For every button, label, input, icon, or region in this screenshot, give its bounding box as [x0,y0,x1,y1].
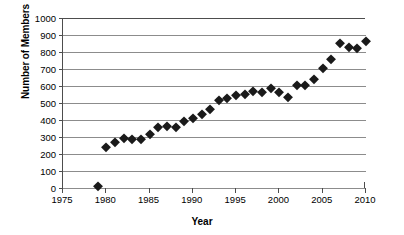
data-point-marker [318,63,327,72]
gridline [63,154,366,155]
x-tick-mark [149,188,150,193]
y-tick-mark [59,69,63,70]
y-tick-mark [59,18,63,19]
data-point-marker [275,87,284,96]
x-tick-label: 2005 [311,194,332,205]
y-tick-label: 0 [51,183,56,194]
y-tick-label: 600 [40,81,56,92]
x-tick-mark [62,188,63,193]
gridline [63,171,366,172]
y-tick-mark [59,86,63,87]
x-tick-label: 2010 [354,194,375,205]
y-tick-label: 700 [40,64,56,75]
gridline [63,52,366,53]
y-tick-label: 300 [40,132,56,143]
plot-area: 01002003004005006007008009001000 [62,18,365,188]
y-tick-mark [59,35,63,36]
y-tick-label: 200 [40,149,56,160]
x-tick-mark [322,188,323,193]
data-point-marker [309,75,318,84]
data-point-marker [283,92,292,101]
x-tick-label: 1990 [181,194,202,205]
data-point-marker [258,87,267,96]
y-axis-title: Number of Members [20,0,31,122]
y-tick-label: 1000 [35,13,56,24]
gridline [63,35,366,36]
data-point-marker [197,110,206,119]
x-tick-label: 2000 [268,194,289,205]
data-point-marker [154,123,163,132]
x-tick-label: 1980 [95,194,116,205]
x-tick-label: 1985 [138,194,159,205]
gridline [63,86,366,87]
y-tick-mark [59,137,63,138]
gridline [63,120,366,121]
x-tick-mark [278,188,279,193]
data-point-marker [136,134,145,143]
data-point-marker [301,80,310,89]
x-tick-mark [192,188,193,193]
data-point-marker [188,114,197,123]
y-tick-mark [59,171,63,172]
y-tick-label: 900 [40,30,56,41]
y-tick-mark [59,52,63,53]
chart-container: Number of Members Year 01002003004005006… [0,0,404,235]
data-point-marker [110,137,119,146]
y-tick-label: 400 [40,115,56,126]
x-tick-label: 1975 [51,194,72,205]
y-tick-label: 800 [40,47,56,58]
data-point-marker [361,37,370,46]
gridline [63,103,366,104]
data-point-marker [206,105,215,114]
data-point-marker [102,143,111,152]
y-tick-label: 500 [40,98,56,109]
y-tick-mark [59,154,63,155]
x-tick-mark [105,188,106,193]
x-tick-mark [235,188,236,193]
y-tick-mark [59,120,63,121]
x-tick-mark [365,188,366,193]
gridline [63,188,366,189]
data-point-marker [171,122,180,131]
gridline [63,137,366,138]
y-tick-label: 100 [40,166,56,177]
data-point-marker [232,90,241,99]
y-tick-mark [59,103,63,104]
x-axis-title: Year [0,216,404,227]
data-point-marker [93,182,102,191]
x-tick-label: 1995 [225,194,246,205]
data-point-marker [327,55,336,64]
